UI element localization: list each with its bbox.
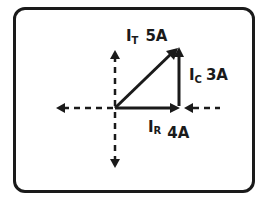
axis-right-dashed <box>184 103 220 113</box>
label-ic: IC3A <box>189 66 228 85</box>
arrow-right-icon <box>184 103 193 113</box>
axis-left-dashed <box>56 103 113 113</box>
vector-it <box>115 48 178 108</box>
phasor-diagram: IT5A IC3A IR4A <box>0 0 264 206</box>
vector-ic <box>174 47 184 106</box>
vector-ir <box>115 103 180 113</box>
arrow-left-icon <box>56 103 65 113</box>
arrow-down-icon <box>110 159 120 168</box>
label-ir: IR4A <box>148 118 190 142</box>
axis-down-dashed <box>110 112 120 168</box>
axis-up-dashed <box>110 50 120 106</box>
label-it: IT5A <box>126 27 168 46</box>
arrow-up-icon <box>110 50 120 59</box>
